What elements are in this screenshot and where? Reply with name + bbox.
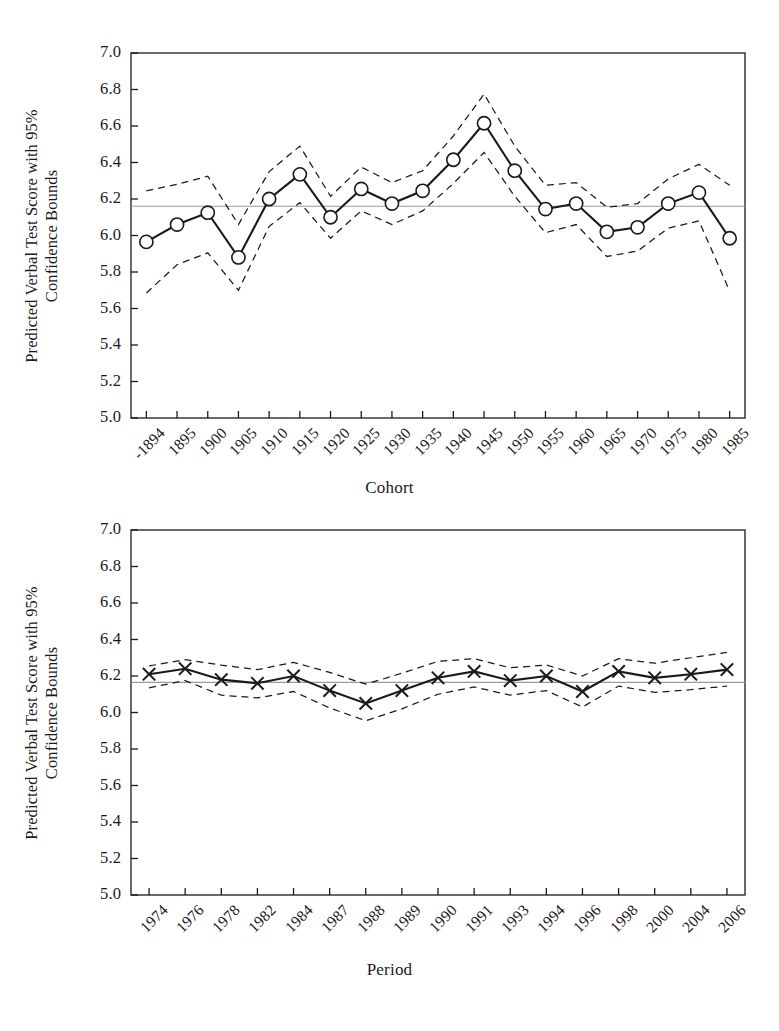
- y-tick-label: 6.6: [75, 592, 121, 612]
- confidence-bound-line: [149, 681, 727, 721]
- data-point-marker: [323, 684, 335, 696]
- data-point-marker: [201, 206, 214, 219]
- figure-container: Predicted Verbal Test Score with 95% Con…: [0, 0, 779, 1031]
- cohort-panel: Predicted Verbal Test Score with 95% Con…: [0, 0, 779, 505]
- data-point-marker: [600, 225, 613, 238]
- data-point-marker: [508, 164, 521, 177]
- data-point-marker: [232, 251, 245, 264]
- data-point-marker: [477, 117, 490, 130]
- y-tick-label: 5.8: [75, 261, 121, 281]
- y-tick-label: 5.0: [75, 407, 121, 427]
- period-panel: Predicted Verbal Test Score with 95% Con…: [0, 477, 779, 1031]
- data-point-marker: [324, 211, 337, 224]
- data-point-marker: [170, 218, 183, 231]
- plot-frame: [131, 530, 745, 895]
- data-point-marker: [263, 192, 276, 205]
- confidence-bound-line: [149, 652, 727, 684]
- data-point-marker: [631, 221, 644, 234]
- y-tick-label: 5.4: [75, 334, 121, 354]
- y-tick-label: 5.0: [75, 884, 121, 904]
- data-point-marker: [576, 685, 588, 697]
- data-series-line: [146, 123, 729, 257]
- data-point-marker: [723, 232, 736, 245]
- data-point-marker: [447, 153, 460, 166]
- data-point-marker: [570, 197, 583, 210]
- data-point-marker: [355, 182, 368, 195]
- data-point-marker: [539, 202, 552, 215]
- data-point-marker: [692, 186, 705, 199]
- y-tick-label: 6.8: [75, 556, 121, 576]
- y-tick-label: 7.0: [75, 42, 121, 62]
- y-tick-label: 5.2: [75, 848, 121, 868]
- y-tick-label: 6.0: [75, 225, 121, 245]
- cohort-plot-area: [0, 0, 779, 505]
- y-tick-label: 6.0: [75, 702, 121, 722]
- data-point-marker: [662, 197, 675, 210]
- data-point-marker: [293, 168, 306, 181]
- y-tick-label: 6.6: [75, 115, 121, 135]
- data-point-marker: [360, 697, 372, 709]
- y-tick-label: 5.6: [75, 775, 121, 795]
- data-point-marker: [396, 684, 408, 696]
- confidence-bound-line: [146, 94, 729, 224]
- y-tick-label: 6.4: [75, 629, 121, 649]
- y-tick-label: 6.4: [75, 152, 121, 172]
- y-tick-label: 5.4: [75, 811, 121, 831]
- y-tick-label: 6.8: [75, 79, 121, 99]
- y-tick-label: 7.0: [75, 519, 121, 539]
- y-tick-label: 6.2: [75, 665, 121, 685]
- data-point-marker: [416, 184, 429, 197]
- data-point-marker: [140, 235, 153, 248]
- y-tick-label: 5.2: [75, 371, 121, 391]
- y-tick-label: 5.8: [75, 738, 121, 758]
- data-point-marker: [385, 197, 398, 210]
- y-tick-label: 5.6: [75, 298, 121, 318]
- data-series-line: [149, 669, 727, 704]
- y-tick-label: 6.2: [75, 188, 121, 208]
